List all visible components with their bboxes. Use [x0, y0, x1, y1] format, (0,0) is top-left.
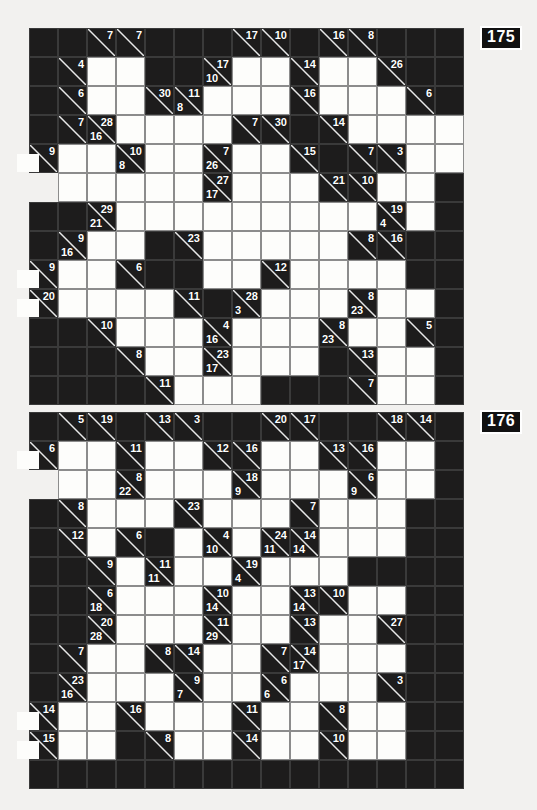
- answer-cell[interactable]: [377, 586, 406, 615]
- answer-cell[interactable]: [174, 731, 203, 760]
- answer-cell[interactable]: [290, 470, 319, 499]
- answer-cell[interactable]: [348, 644, 377, 673]
- answer-cell[interactable]: [203, 499, 232, 528]
- answer-cell[interactable]: [261, 470, 290, 499]
- answer-cell[interactable]: [87, 644, 116, 673]
- answer-cell[interactable]: [58, 441, 87, 470]
- block-cell: [29, 615, 58, 644]
- down-clue-number: 5: [78, 414, 84, 425]
- answer-cell[interactable]: [203, 644, 232, 673]
- answer-cell[interactable]: [348, 499, 377, 528]
- answer-cell[interactable]: [261, 557, 290, 586]
- answer-cell[interactable]: [377, 731, 406, 760]
- answer-cell[interactable]: [87, 441, 116, 470]
- across-clue-number: 29: [206, 631, 218, 642]
- answer-cell[interactable]: [174, 702, 203, 731]
- down-clue-number: 14: [420, 414, 432, 425]
- answer-cell[interactable]: [145, 673, 174, 702]
- answer-cell[interactable]: [377, 644, 406, 673]
- answer-cell[interactable]: [174, 615, 203, 644]
- block-cell: [435, 499, 464, 528]
- answer-cell[interactable]: [348, 586, 377, 615]
- answer-cell[interactable]: [116, 644, 145, 673]
- answer-cell[interactable]: [58, 702, 87, 731]
- answer-cell[interactable]: [232, 528, 261, 557]
- answer-cell[interactable]: [203, 470, 232, 499]
- answer-cell[interactable]: [232, 615, 261, 644]
- clue-cell: 10: [319, 586, 348, 615]
- answer-cell[interactable]: [406, 470, 435, 499]
- answer-cell[interactable]: [319, 528, 348, 557]
- answer-cell[interactable]: [116, 499, 145, 528]
- answer-cell[interactable]: [319, 499, 348, 528]
- answer-cell[interactable]: [232, 499, 261, 528]
- answer-cell[interactable]: [87, 528, 116, 557]
- answer-cell[interactable]: [58, 470, 87, 499]
- answer-cell[interactable]: [261, 731, 290, 760]
- answer-cell[interactable]: [319, 557, 348, 586]
- clue-cell: 12: [203, 441, 232, 470]
- answer-cell[interactable]: [145, 615, 174, 644]
- answer-cell[interactable]: [232, 644, 261, 673]
- answer-cell[interactable]: [116, 586, 145, 615]
- block-cell: [29, 644, 58, 673]
- answer-cell[interactable]: [145, 441, 174, 470]
- answer-cell[interactable]: [203, 673, 232, 702]
- answer-cell[interactable]: [406, 441, 435, 470]
- answer-cell[interactable]: [290, 731, 319, 760]
- answer-cell[interactable]: [261, 441, 290, 470]
- answer-cell[interactable]: [174, 470, 203, 499]
- block-cell: [58, 586, 87, 615]
- answer-cell[interactable]: [377, 499, 406, 528]
- answer-cell[interactable]: [174, 586, 203, 615]
- answer-cell[interactable]: [377, 528, 406, 557]
- clue-cell: 194: [232, 557, 261, 586]
- answer-cell[interactable]: [145, 702, 174, 731]
- answer-cell[interactable]: [319, 615, 348, 644]
- answer-cell[interactable]: [87, 702, 116, 731]
- clue-cell: 1014: [203, 586, 232, 615]
- answer-cell[interactable]: [348, 731, 377, 760]
- answer-cell[interactable]: [261, 615, 290, 644]
- across-clue-number: 9: [351, 486, 357, 497]
- puzzle-page: 7717101684171014266301181667281673014910…: [0, 0, 537, 810]
- answer-cell[interactable]: [261, 499, 290, 528]
- answer-cell[interactable]: [116, 557, 145, 586]
- answer-cell[interactable]: [87, 731, 116, 760]
- answer-cell[interactable]: [58, 731, 87, 760]
- answer-cell[interactable]: [145, 470, 174, 499]
- answer-cell[interactable]: [87, 673, 116, 702]
- answer-cell[interactable]: [377, 702, 406, 731]
- answer-cell[interactable]: [319, 470, 348, 499]
- answer-cell[interactable]: [174, 528, 203, 557]
- answer-cell[interactable]: [377, 441, 406, 470]
- answer-cell[interactable]: [203, 731, 232, 760]
- answer-cell[interactable]: [348, 528, 377, 557]
- answer-cell[interactable]: [174, 557, 203, 586]
- answer-cell[interactable]: [290, 441, 319, 470]
- answer-cell[interactable]: [290, 673, 319, 702]
- answer-cell[interactable]: [145, 586, 174, 615]
- answer-cell[interactable]: [232, 586, 261, 615]
- answer-cell[interactable]: [348, 702, 377, 731]
- answer-cell[interactable]: [377, 470, 406, 499]
- answer-cell[interactable]: [261, 586, 290, 615]
- answer-cell[interactable]: [348, 615, 377, 644]
- answer-cell[interactable]: [203, 557, 232, 586]
- answer-cell[interactable]: [348, 673, 377, 702]
- answer-cell[interactable]: [319, 644, 348, 673]
- down-clue-number: 7: [281, 646, 287, 657]
- answer-cell[interactable]: [116, 615, 145, 644]
- answer-cell[interactable]: [174, 441, 203, 470]
- answer-cell[interactable]: [290, 702, 319, 731]
- answer-cell[interactable]: [261, 702, 290, 731]
- block-cell: [348, 760, 377, 789]
- answer-cell[interactable]: [203, 702, 232, 731]
- answer-cell[interactable]: [232, 673, 261, 702]
- answer-cell[interactable]: [87, 499, 116, 528]
- answer-cell[interactable]: [87, 470, 116, 499]
- answer-cell[interactable]: [116, 673, 145, 702]
- answer-cell[interactable]: [145, 499, 174, 528]
- answer-cell[interactable]: [319, 673, 348, 702]
- answer-cell[interactable]: [290, 557, 319, 586]
